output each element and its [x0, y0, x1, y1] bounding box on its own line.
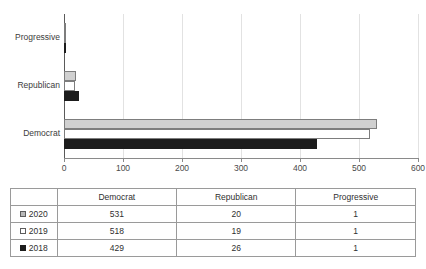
table-cell-2019-democrat: 518: [57, 223, 176, 240]
table-column-header-republican: Republican: [177, 189, 296, 206]
x-tick-label-600: 600: [411, 163, 425, 173]
table-row: 2019518191: [11, 223, 416, 240]
bar-democrat-2018: [64, 139, 317, 149]
legend-cell-2019: 2019: [11, 223, 58, 240]
x-tick-label-100: 100: [116, 163, 130, 173]
table-row: 2020531201: [11, 206, 416, 223]
category-label-democrat: Democrat: [0, 128, 60, 138]
tick-mark-300: [241, 158, 242, 162]
tick-mark-500: [359, 158, 360, 162]
x-tick-label-400: 400: [293, 163, 307, 173]
tick-mark-600: [418, 158, 419, 162]
category-label-republican: Republican: [0, 80, 60, 90]
table-header-row: Democrat Republican Progressive: [11, 189, 416, 206]
table-cell-2019-progressive: 1: [296, 223, 416, 240]
bar-republican-2019: [64, 81, 75, 91]
tick-mark-400: [300, 158, 301, 162]
tick-mark-100: [123, 158, 124, 162]
table-cell-2020-republican: 20: [177, 206, 296, 223]
table-cell-2020-democrat: 531: [57, 206, 176, 223]
legend-cell-2018: 2018: [11, 240, 58, 257]
legend-label-2020: 2020: [29, 209, 48, 219]
x-tick-label-300: 300: [234, 163, 248, 173]
table-cell-2018-democrat: 429: [57, 240, 176, 257]
bar-republican-2018: [64, 91, 79, 101]
table-cell-2018-progressive: 1: [296, 240, 416, 257]
bar-progressive-2019: [64, 33, 66, 43]
tick-mark-0: [64, 158, 65, 162]
legend-swatch-icon-2018: [20, 245, 26, 251]
x-tick-label-500: 500: [352, 163, 366, 173]
x-tick-label-0: 0: [62, 163, 67, 173]
x-tick-label-200: 200: [175, 163, 189, 173]
bar-progressive-2020: [64, 23, 66, 33]
legend-label-2018: 2018: [29, 243, 48, 253]
bar-chart-figure: 0100200300400500600 ProgressiveRepublica…: [0, 0, 426, 182]
table-cell-2019-republican: 19: [177, 223, 296, 240]
tick-mark-200: [182, 158, 183, 162]
data-table: Democrat Republican Progressive 20205312…: [10, 188, 416, 257]
legend-swatch-icon-2019: [20, 228, 26, 234]
bar-republican-2020: [64, 71, 76, 81]
category-label-progressive: Progressive: [0, 32, 60, 42]
table-body: 202053120120195181912018429261: [11, 206, 416, 257]
table-corner-cell: [11, 189, 58, 206]
legend-label-2019: 2019: [29, 226, 48, 236]
bar-progressive-2018: [64, 43, 66, 53]
table-cell-2020-progressive: 1: [296, 206, 416, 223]
table-column-header-democrat: Democrat: [57, 189, 176, 206]
table-cell-2018-republican: 26: [177, 240, 296, 257]
legend-cell-2020: 2020: [11, 206, 58, 223]
table-row: 2018429261: [11, 240, 416, 257]
legend-swatch-icon-2020: [20, 211, 26, 217]
gridline-600: [418, 14, 419, 158]
bar-democrat-2020: [64, 119, 377, 129]
data-table-container: Democrat Republican Progressive 20205312…: [10, 188, 416, 257]
bar-democrat-2019: [64, 129, 370, 139]
table-column-header-progressive: Progressive: [296, 189, 416, 206]
